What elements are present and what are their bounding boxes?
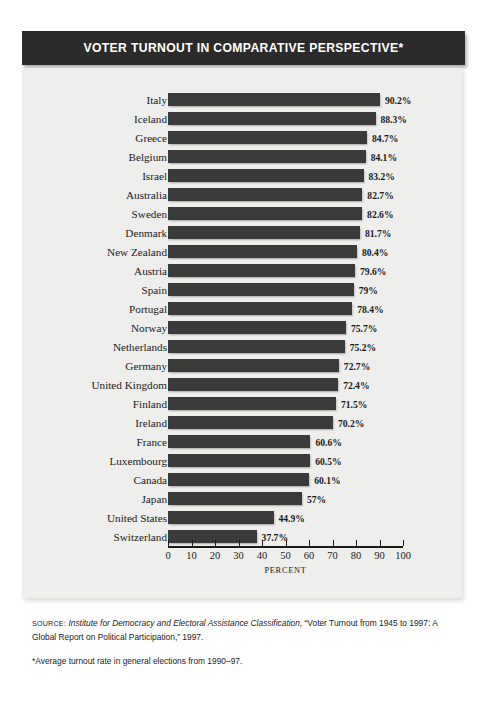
bar-value-label: 71.5% <box>341 398 367 409</box>
bar-row: France60.6% <box>22 432 462 451</box>
bar-category-label: France <box>137 436 167 448</box>
bar-category-label: Portugal <box>129 303 167 315</box>
bar-category-label: Denmark <box>125 227 167 239</box>
bar <box>168 340 345 353</box>
x-axis-title: PERCENT <box>168 566 403 575</box>
bar-value-label: 79% <box>359 284 378 295</box>
x-axis-tick-label: 60 <box>304 550 315 561</box>
bar <box>168 245 357 258</box>
x-axis-tick <box>380 540 381 546</box>
bar-row: Australia82.7% <box>22 185 462 204</box>
bar-value-label: 90.2% <box>385 94 411 105</box>
footnote: *Average turnout rate in general electio… <box>32 655 456 668</box>
x-axis-tick <box>403 540 404 546</box>
plot-area: Italy90.2%Iceland88.3%Greece84.7%Belgium… <box>22 68 462 598</box>
bar-category-label: Belgium <box>128 151 167 163</box>
source-note: SOURCE: Institute for Democracy and Elec… <box>32 617 456 643</box>
bar-category-label: Germany <box>125 360 167 372</box>
bar-category-label: Luxembourg <box>109 455 167 467</box>
bar-row: Italy90.2% <box>22 90 462 109</box>
source-label: SOURCE: <box>32 620 66 628</box>
x-axis-tick-label: 10 <box>186 550 197 561</box>
bar-row: Iceland88.3% <box>22 109 462 128</box>
bar-category-label: Canada <box>133 474 167 486</box>
bar-row: Germany72.7% <box>22 356 462 375</box>
bar-row: Switzerland37.7% <box>22 527 462 546</box>
bar-category-label: Ireland <box>135 417 167 429</box>
x-axis-tick-label: 100 <box>395 550 411 561</box>
bar-value-label: 88.3% <box>381 113 407 124</box>
bar-value-label: 70.2% <box>338 417 364 428</box>
x-axis-tick <box>356 540 357 546</box>
bar <box>168 359 339 372</box>
x-axis-tick-label: 80 <box>351 550 362 561</box>
bar-value-label: 84.1% <box>371 151 397 162</box>
x-axis-line: 0102030405060708090100 <box>168 546 403 548</box>
bar-value-label: 79.6% <box>360 265 386 276</box>
page-title: VOTER TURNOUT IN COMPARATIVE PERSPECTIVE… <box>22 41 465 55</box>
source-italic: Institute for Democracy and Electoral As… <box>68 618 302 628</box>
bar-row: Ireland70.2% <box>22 413 462 432</box>
bar <box>168 530 257 543</box>
bar <box>168 473 309 486</box>
bar <box>168 169 364 182</box>
bar-category-label: Japan <box>142 493 167 505</box>
bar <box>168 416 333 429</box>
bar <box>168 454 310 467</box>
bar-row: New Zealand80.4% <box>22 242 462 261</box>
bar-value-label: 78.4% <box>357 303 383 314</box>
bar <box>168 283 354 296</box>
bar-category-label: Italy <box>146 94 167 106</box>
x-axis-tick-label: 40 <box>257 550 268 561</box>
bar-category-label: Finland <box>133 398 167 410</box>
bar <box>168 378 338 391</box>
x-axis-tick-label: 30 <box>233 550 244 561</box>
bar-row: Luxembourg60.5% <box>22 451 462 470</box>
bar-category-label: Netherlands <box>113 341 167 353</box>
bar-category-label: Israel <box>142 170 167 182</box>
bar <box>168 321 346 334</box>
bar-row: Portugal78.4% <box>22 299 462 318</box>
bar-value-label: 82.7% <box>367 189 393 200</box>
bar-value-label: 84.7% <box>372 132 398 143</box>
bar <box>168 435 310 448</box>
bar-value-label: 44.9% <box>279 512 305 523</box>
bar-value-label: 80.4% <box>362 246 388 257</box>
bar-category-label: Austria <box>134 265 167 277</box>
bar <box>168 112 376 125</box>
bar-value-label: 57% <box>307 493 326 504</box>
bar <box>168 207 362 220</box>
bar-row: United States44.9% <box>22 508 462 527</box>
bar-value-label: 81.7% <box>365 227 391 238</box>
bar-value-label: 72.7% <box>344 360 370 371</box>
bar-row: Japan57% <box>22 489 462 508</box>
bar-row: United Kingdom72.4% <box>22 375 462 394</box>
x-axis-tick-label: 50 <box>280 550 291 561</box>
bar-category-label: New Zealand <box>107 246 167 258</box>
bar-value-label: 83.2% <box>369 170 395 181</box>
bar-category-label: United Kingdom <box>91 379 167 391</box>
bar-row: Denmark81.7% <box>22 223 462 242</box>
bar-value-label: 60.6% <box>315 436 341 447</box>
chart-title-banner: VOTER TURNOUT IN COMPARATIVE PERSPECTIVE… <box>22 31 465 65</box>
bar <box>168 150 366 163</box>
bar-value-label: 60.5% <box>315 455 341 466</box>
bar <box>168 188 362 201</box>
bar <box>168 492 302 505</box>
bar-row: Spain79% <box>22 280 462 299</box>
x-axis-tick <box>192 540 193 546</box>
bar-row: Greece84.7% <box>22 128 462 147</box>
bar <box>168 264 355 277</box>
x-axis-tick <box>215 540 216 546</box>
x-axis-tick <box>168 540 169 546</box>
bar-row: Israel83.2% <box>22 166 462 185</box>
bar-row: Norway75.7% <box>22 318 462 337</box>
bar-category-label: United States <box>107 512 167 524</box>
x-axis-tick <box>262 540 263 546</box>
bar-row: Canada60.1% <box>22 470 462 489</box>
bar <box>168 226 360 239</box>
x-axis-tick <box>333 540 334 546</box>
x-axis-tick-label: 90 <box>374 550 385 561</box>
bar-category-label: Greece <box>135 132 167 144</box>
bar <box>168 302 352 315</box>
